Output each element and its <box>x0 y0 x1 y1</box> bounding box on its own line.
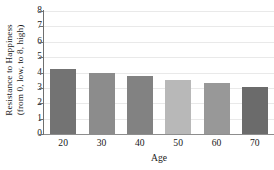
x-axis-baseline <box>44 134 274 135</box>
x-axis-title: Age <box>44 152 274 164</box>
x-axis-tick-labels: 203040506070 <box>44 137 274 151</box>
bar-age-40 <box>127 76 153 134</box>
y-axis-title-line1: Resistance to Happiness <box>4 24 15 116</box>
bar-age-30 <box>89 73 115 135</box>
bar-age-70 <box>242 87 268 134</box>
x-tick-label-30: 30 <box>97 137 107 149</box>
bar-age-60 <box>204 83 230 134</box>
x-tick-label-40: 40 <box>135 137 145 149</box>
y-axis-title: Resistance to Happiness (from 0, low, to… <box>0 0 30 140</box>
x-tick-label-60: 60 <box>212 137 222 149</box>
x-tick-label-70: 70 <box>250 137 260 149</box>
x-tick-label-50: 50 <box>173 137 183 149</box>
bar-age-20 <box>50 69 76 134</box>
bar-chart: Resistance to Happiness (from 0, low, to… <box>0 0 274 170</box>
bar-age-50 <box>165 80 191 134</box>
y-axis-title-line2: (from 0, low, to 8, high) <box>15 24 26 116</box>
x-tick-label-20: 20 <box>58 137 68 149</box>
bar-series <box>44 11 274 134</box>
